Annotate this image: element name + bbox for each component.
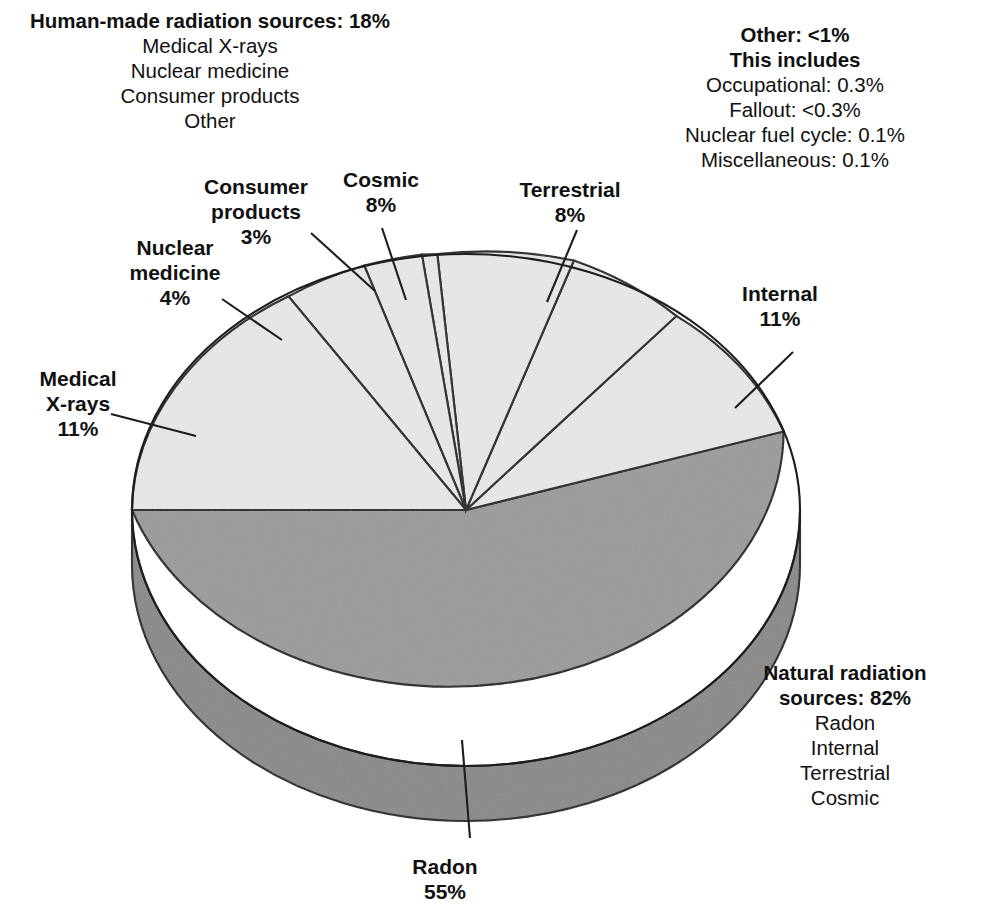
slice-label-internal: Internal 11% bbox=[710, 282, 850, 332]
pie-chart-figure: Human-made radiation sources: 18% Medica… bbox=[0, 0, 990, 908]
slice-label-name: Medical bbox=[8, 367, 148, 392]
slice-label-name: Terrestrial bbox=[490, 178, 650, 203]
human-made-item: Medical X-rays bbox=[0, 33, 420, 58]
other-item: Miscellaneous: 0.1% bbox=[600, 147, 990, 172]
slice-label-name: Nuclear bbox=[100, 236, 250, 261]
human-made-item: Consumer products bbox=[0, 83, 420, 108]
other-heading: Other: <1% bbox=[600, 22, 990, 47]
natural-heading-line2: sources: 82% bbox=[700, 685, 990, 710]
other-item: Occupational: 0.3% bbox=[600, 72, 990, 97]
human-made-item: Nuclear medicine bbox=[0, 58, 420, 83]
slice-label-name2: medicine bbox=[100, 261, 250, 286]
natural-item: Internal bbox=[700, 735, 990, 760]
slice-label-terrestrial: Terrestrial 8% bbox=[490, 178, 650, 228]
human-made-sources-note: Human-made radiation sources: 18% Medica… bbox=[0, 8, 420, 133]
slice-label-radon: Radon 55% bbox=[380, 855, 510, 905]
slice-label-name: Consumer bbox=[186, 175, 326, 200]
slice-label-name: Cosmic bbox=[316, 168, 446, 193]
human-made-heading: Human-made radiation sources: 18% bbox=[0, 8, 420, 33]
human-made-item: Other bbox=[0, 108, 420, 133]
other-subheading: This includes bbox=[600, 47, 990, 72]
other-sources-note: Other: <1% This includes Occupational: 0… bbox=[600, 22, 990, 172]
natural-item: Radon bbox=[700, 710, 990, 735]
slice-label-medical-xrays: Medical X-rays 11% bbox=[8, 367, 148, 441]
other-item: Fallout: <0.3% bbox=[600, 97, 990, 122]
slice-label-value: 11% bbox=[710, 307, 850, 332]
slice-label-value: 55% bbox=[380, 880, 510, 905]
natural-item: Cosmic bbox=[700, 785, 990, 810]
slice-label-value: 4% bbox=[100, 286, 250, 311]
slice-label-value: 11% bbox=[8, 417, 148, 442]
slice-label-nuclear-medicine: Nuclear medicine 4% bbox=[100, 236, 250, 310]
slice-label-name: Radon bbox=[380, 855, 510, 880]
natural-item: Terrestrial bbox=[700, 760, 990, 785]
slice-label-value: 8% bbox=[490, 203, 650, 228]
slice-label-name: Internal bbox=[710, 282, 850, 307]
natural-heading-line1: Natural radiation bbox=[700, 660, 990, 685]
slice-label-value: 8% bbox=[316, 193, 446, 218]
slice-label-cosmic: Cosmic 8% bbox=[316, 168, 446, 218]
other-item: Nuclear fuel cycle: 0.1% bbox=[600, 122, 990, 147]
natural-sources-note: Natural radiation sources: 82% Radon Int… bbox=[700, 660, 990, 810]
slice-label-name2: X-rays bbox=[8, 392, 148, 417]
slice-label-name2: products bbox=[186, 200, 326, 225]
